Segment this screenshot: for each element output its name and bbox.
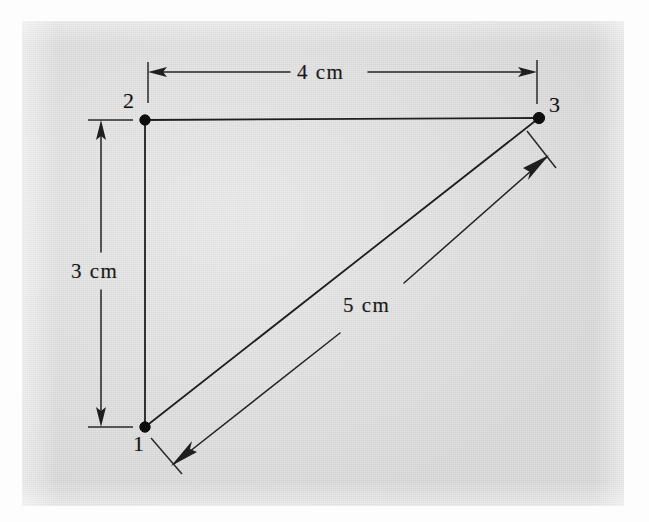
dimension-label-5cm: 5 cm (343, 293, 390, 318)
arrowhead-lower-5cm (171, 441, 197, 466)
arrowhead-upper-5cm (523, 155, 549, 180)
dimension-label-3cm: 3 cm (71, 259, 118, 284)
node-label-1: 1 (133, 431, 144, 457)
dimension-line-5cm-upper (404, 157, 547, 283)
node-label-3: 3 (549, 92, 560, 118)
dimension-line-5cm-lower (175, 333, 340, 463)
triangle-side-hypotenuse (145, 118, 539, 427)
dimension-label-4cm: 4 cm (297, 60, 344, 85)
node-label-2: 2 (123, 88, 134, 114)
node-dot-2 (140, 115, 150, 125)
extension-line-diagonal-lower (151, 438, 182, 474)
triangle-side-top (145, 118, 539, 120)
node-dot-3 (533, 112, 544, 123)
figure-page: .ln { stroke: #1f1f1f; stroke-width: 1.8… (0, 0, 649, 522)
